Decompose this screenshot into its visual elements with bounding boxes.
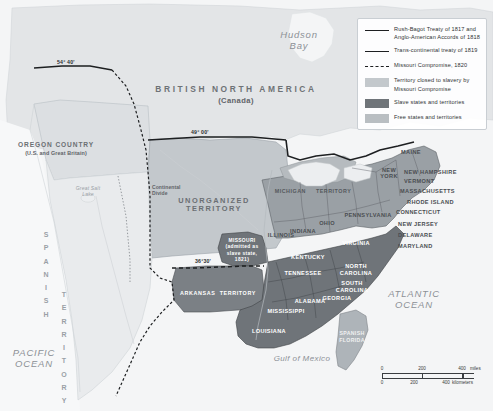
- legend-label-free-states: Free states and territories: [394, 113, 480, 121]
- scale-km-tick-1: 200: [410, 380, 418, 385]
- legend-label-rush-bagot: Rush-Bagot Treaty of 1817 and Anglo-Amer…: [394, 25, 480, 42]
- legend-label-missouri-compromise: Missouri Compromise, 1820: [394, 61, 480, 69]
- region-missouri: [218, 232, 268, 266]
- map-legend: Rush-Bagot Treaty of 1817 and Anglo-Amer…: [357, 18, 487, 130]
- scale-km-unit: kilometers: [452, 380, 473, 385]
- legend-key-swatch-mid: [365, 115, 389, 123]
- scale-km-numbers: 0 200 400 kilometers: [382, 380, 474, 387]
- scale-miles-tick-1: 200: [418, 366, 426, 371]
- legend-key-solid-line-2: [365, 49, 389, 57]
- legend-item-free-states: Free states and territories: [365, 113, 480, 124]
- legend-item-transcontinental: Trans-continental treaty of 1819: [365, 46, 480, 57]
- legend-item-slave-states: Slave states and territories: [365, 98, 480, 109]
- legend-label-closed-to-slavery: Territory closed to slavery by Missouri …: [394, 76, 480, 93]
- region-arkansas-territory: [172, 266, 264, 312]
- legend-key-dashed-line: [365, 64, 389, 72]
- legend-label-slave-states: Slave states and territories: [394, 98, 480, 106]
- legend-label-transcontinental: Trans-continental treaty of 1819: [394, 46, 480, 54]
- spanish-territory-label-2: TERRITORY: [58, 288, 72, 408]
- scale-km-tick-2: 400: [442, 380, 450, 385]
- region-spanish-florida: [336, 310, 368, 370]
- map-scale-bar: 0 200 400 miles 0 200 400 kilometers: [382, 366, 474, 387]
- region-oregon-country: [34, 100, 150, 180]
- legend-item-closed-to-slavery: Territory closed to slavery by Missouri …: [365, 76, 480, 93]
- scale-miles-tick-2: 400: [458, 366, 466, 371]
- scale-km-tick-0: 0: [381, 380, 384, 385]
- spanish-territory-label: SPANISH: [40, 228, 54, 321]
- legend-key-swatch-dark: [365, 100, 389, 108]
- historical-map: Hudson Bay ATLANTIC OCEAN PACIFIC OCEAN …: [0, 0, 493, 411]
- scale-miles-unit: miles: [470, 366, 481, 371]
- great-salt-lake-water: [81, 194, 95, 202]
- legend-item-missouri-compromise: Missouri Compromise, 1820: [365, 61, 480, 72]
- scale-miles-numbers: 0 200 400 miles: [382, 366, 474, 373]
- legend-item-rush-bagot: Rush-Bagot Treaty of 1817 and Anglo-Amer…: [365, 25, 480, 42]
- scale-miles-tick-0: 0: [381, 366, 384, 371]
- legend-key-swatch-light: [365, 79, 389, 87]
- scale-track: [382, 373, 474, 379]
- legend-key-solid-line: [365, 28, 389, 36]
